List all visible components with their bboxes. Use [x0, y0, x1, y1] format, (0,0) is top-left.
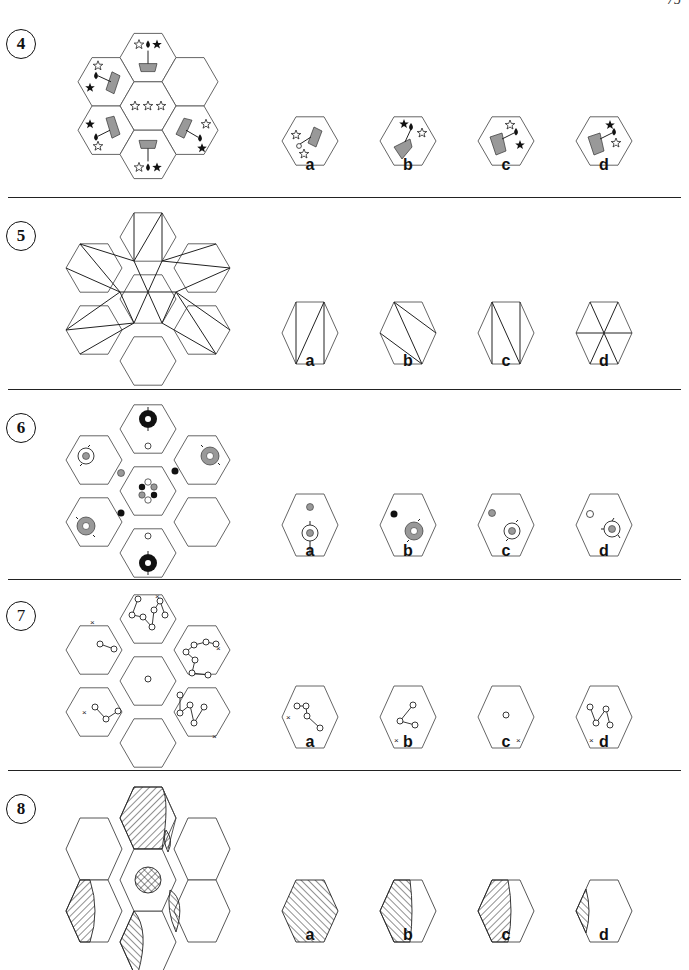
option-c-label[interactable]: c	[491, 156, 521, 174]
option-b-label[interactable]: b	[393, 352, 423, 370]
option-d-label[interactable]: d	[589, 156, 619, 174]
question-6-pattern-grid	[0, 389, 689, 579]
svg-text:×: ×	[82, 708, 87, 717]
question-8-pattern-grid	[0, 770, 689, 970]
option-a-label[interactable]: a	[295, 926, 325, 944]
option-b-label[interactable]: b	[393, 542, 423, 560]
option-d-label[interactable]: d	[589, 542, 619, 560]
option-a-label[interactable]: a	[295, 733, 325, 751]
option-a-label[interactable]: a	[295, 156, 325, 174]
svg-text:×: ×	[286, 713, 291, 722]
option-d-label[interactable]: d	[589, 733, 619, 751]
option-c-label[interactable]: c	[491, 926, 521, 944]
option-c-label[interactable]: c	[491, 352, 521, 370]
question-5-pattern-grid	[0, 197, 689, 389]
question-8: 8	[0, 770, 689, 970]
option-c-label[interactable]: c	[491, 542, 521, 560]
question-7-pattern-grid: × × × × × ×	[0, 579, 689, 770]
option-b-label[interactable]: b	[393, 733, 423, 751]
svg-text:×: ×	[212, 732, 217, 741]
option-c-label[interactable]: c	[491, 733, 521, 751]
question-5: 5	[0, 197, 689, 389]
svg-text:×: ×	[90, 618, 95, 627]
option-a-label[interactable]: a	[295, 352, 325, 370]
option-a-label[interactable]: a	[295, 542, 325, 560]
question-4-pattern-grid	[0, 0, 689, 197]
option-b-label[interactable]: b	[393, 156, 423, 174]
question-7: 7 × × × ×	[0, 579, 689, 770]
option-d-label[interactable]: d	[589, 926, 619, 944]
question-4: 4	[0, 0, 689, 197]
question-6: 6	[0, 389, 689, 579]
option-b-label[interactable]: b	[393, 926, 423, 944]
option-d-label[interactable]: d	[589, 352, 619, 370]
